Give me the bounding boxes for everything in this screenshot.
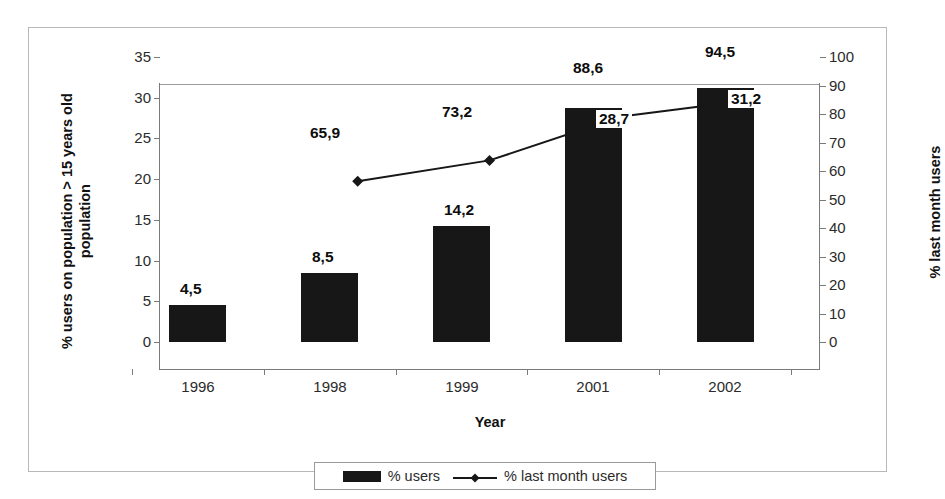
y-axis-left-tick-label: 30	[134, 90, 151, 105]
line-value-label: 88,6	[570, 60, 606, 76]
x-axis-title: Year	[160, 413, 820, 431]
bar-value-label: 31,2	[728, 90, 764, 108]
line-value-label: 65,9	[307, 125, 343, 141]
line-value-label: 94,5	[702, 44, 738, 60]
y-axis-right-title: % last month users	[926, 72, 944, 352]
y-axis-right-tick	[820, 314, 826, 315]
bar-value-label: 4,5	[177, 280, 205, 298]
x-axis-tick	[791, 369, 792, 375]
x-axis-category-label: 2001	[533, 378, 653, 395]
x-axis-category-label: 1998	[270, 378, 390, 395]
y-axis-right-tick-label: 20	[829, 277, 846, 292]
y-axis-left-title: % users on population > 15 years old pop…	[58, 81, 94, 361]
x-axis-category-label: 2002	[665, 378, 785, 395]
x-axis-category-label: 1996	[138, 378, 258, 395]
y-axis-right-tick-label: 70	[829, 135, 846, 150]
x-axis-tick	[132, 369, 133, 375]
y-axis-right-tick	[820, 114, 826, 115]
y-axis-right-tick	[820, 342, 826, 343]
y-axis-right-tick-label: 90	[829, 78, 846, 93]
legend-item-line-label: % last month users	[504, 468, 627, 484]
bar-value-label: 28,7	[596, 110, 632, 128]
x-axis-tick	[527, 369, 528, 375]
legend-item-bar[interactable]: % users	[343, 468, 440, 484]
x-axis-tick	[659, 369, 660, 375]
y-axis-right-tick-label: 60	[829, 163, 846, 178]
y-axis-left-tick-label: 35	[134, 49, 151, 64]
y-axis-left-tick-label: 10	[134, 253, 151, 268]
legend-item-line[interactable]: % last month users	[453, 468, 627, 484]
y-axis-right-tick-label: 80	[829, 106, 846, 121]
y-axis-right-tick-label: 50	[829, 192, 846, 207]
y-axis-left-tick-label: 0	[143, 334, 151, 349]
x-axis-tick	[264, 369, 265, 375]
y-axis-right-line	[819, 83, 820, 370]
line-value-label: 73,2	[439, 104, 475, 120]
plot-area	[160, 84, 819, 369]
x-axis-tick	[396, 369, 397, 375]
x-axis-category-label: 1999	[402, 378, 522, 395]
y-axis-right-tick	[820, 143, 826, 144]
y-axis-right-tick-label: 40	[829, 220, 846, 235]
y-axis-right-tick-label: 10	[829, 306, 846, 321]
y-axis-left-tick-label: 5	[143, 293, 151, 308]
y-axis-left-tick-label: 15	[134, 212, 151, 227]
x-axis-line	[160, 369, 820, 370]
legend-item-bar-label: % users	[388, 468, 440, 484]
bar-value-label: 14,2	[441, 201, 477, 219]
y-axis-right-tick-label: 100	[829, 49, 854, 64]
chart-legend: % users % last month users	[314, 462, 656, 490]
y-axis-right-tick-label: 0	[829, 334, 837, 349]
chart-frame: % users on population > 15 years old pop…	[28, 27, 887, 472]
y-axis-left-tick-label: 25	[134, 130, 151, 145]
y-axis-right-tick	[820, 228, 826, 229]
plot-top-border	[160, 84, 819, 85]
y-axis-right-tick-label: 30	[829, 249, 846, 264]
bar-value-label: 8,5	[309, 248, 337, 266]
legend-bar-swatch-icon	[343, 471, 381, 482]
y-axis-right-tick	[820, 200, 826, 201]
y-axis-right-tick	[820, 57, 826, 58]
y-axis-left-tick	[154, 57, 160, 58]
legend-line-diamond-icon	[453, 470, 497, 482]
y-axis-right-tick	[820, 257, 826, 258]
y-axis-right-tick	[820, 86, 826, 87]
y-axis-right-tick	[820, 171, 826, 172]
y-axis-right-tick	[820, 285, 826, 286]
y-axis-left-tick-label: 20	[134, 171, 151, 186]
